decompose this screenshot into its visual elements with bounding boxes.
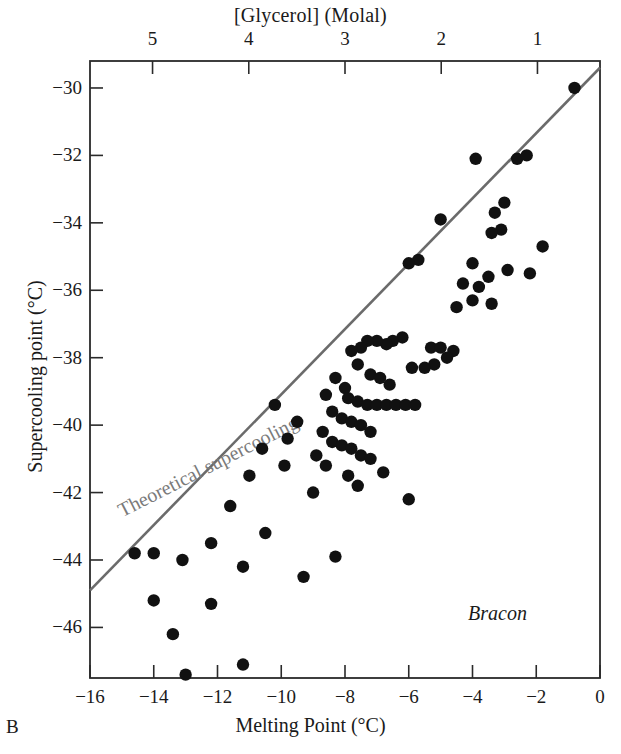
data-point — [466, 294, 478, 306]
data-point — [520, 149, 532, 161]
data-point — [297, 571, 309, 583]
data-point — [259, 527, 271, 539]
data-point — [167, 628, 179, 640]
left-tick-label-2: −34 — [30, 212, 82, 234]
data-point — [224, 500, 236, 512]
data-point — [441, 351, 453, 363]
data-point — [307, 486, 319, 498]
data-point — [269, 399, 281, 411]
bottom-tick-label-0: −16 — [75, 686, 105, 708]
bottom-tick-label-1: −14 — [139, 686, 169, 708]
data-point — [320, 459, 332, 471]
bottom-tick-label-7: −2 — [526, 686, 546, 708]
data-point — [364, 426, 376, 438]
top-tick-label-1: 4 — [244, 28, 254, 50]
left-tick-label-1: −32 — [30, 144, 82, 166]
data-point — [466, 257, 478, 269]
data-point — [485, 227, 497, 239]
data-point — [434, 213, 446, 225]
data-point — [205, 537, 217, 549]
data-point — [409, 399, 421, 411]
data-point — [345, 345, 357, 357]
data-point — [148, 547, 160, 559]
data-point — [243, 470, 255, 482]
data-point — [342, 470, 354, 482]
data-point — [352, 358, 364, 370]
data-point — [473, 281, 485, 293]
bottom-tick-label-2: −12 — [203, 686, 233, 708]
data-point — [329, 550, 341, 562]
left-tick-label-4: −38 — [30, 347, 82, 369]
data-point — [310, 449, 322, 461]
bottom-tick-label-4: −8 — [335, 686, 355, 708]
left-tick-label-5: −40 — [30, 414, 82, 436]
data-point — [482, 271, 494, 283]
data-point — [469, 153, 481, 165]
bottom-tick-label-5: −6 — [399, 686, 419, 708]
top-tick-label-2: 3 — [340, 28, 350, 50]
left-tick-label-6: −42 — [30, 482, 82, 504]
data-point — [176, 554, 188, 566]
top-tick-label-3: 2 — [436, 28, 446, 50]
bottom-tick-label-8: 0 — [595, 686, 605, 708]
theoretical-supercooling-line — [90, 68, 600, 591]
data-point — [128, 547, 140, 559]
data-point — [329, 372, 341, 384]
scatter-plot: Theoretical supercooling — [0, 0, 621, 754]
data-point — [489, 207, 501, 219]
data-point — [148, 594, 160, 606]
left-tick-label-3: −36 — [30, 279, 82, 301]
data-point — [291, 416, 303, 428]
left-tick-label-0: −30 — [30, 77, 82, 99]
bottom-tick-label-6: −4 — [462, 686, 482, 708]
data-point — [281, 432, 293, 444]
data-point — [205, 598, 217, 610]
data-point — [352, 480, 364, 492]
bottom-tick-label-3: −10 — [266, 686, 296, 708]
data-point — [568, 82, 580, 94]
data-point — [418, 362, 430, 374]
data-point — [406, 362, 418, 374]
data-point — [524, 267, 536, 279]
data-point — [403, 493, 415, 505]
figure-panel-b: [Glycerol] (Molal) Melting Point (°C) Su… — [0, 0, 621, 754]
data-point — [237, 658, 249, 670]
left-tick-label-7: −44 — [30, 549, 82, 571]
left-tick-label-8: −46 — [30, 616, 82, 638]
data-point — [485, 298, 497, 310]
data-point — [320, 389, 332, 401]
data-point — [498, 196, 510, 208]
data-point — [501, 264, 513, 276]
data-point — [278, 459, 290, 471]
data-point — [179, 668, 191, 680]
data-point — [383, 378, 395, 390]
data-point — [457, 277, 469, 289]
data-point — [536, 240, 548, 252]
data-point — [316, 426, 328, 438]
top-tick-label-0: 5 — [148, 28, 158, 50]
data-point — [450, 301, 462, 313]
data-point — [377, 466, 389, 478]
data-point — [237, 561, 249, 573]
data-point — [256, 443, 268, 455]
top-tick-label-4: 1 — [533, 28, 543, 50]
data-point — [403, 257, 415, 269]
data-point — [364, 453, 376, 465]
theoretical-supercooling-label: Theoretical supercooling — [114, 411, 302, 522]
